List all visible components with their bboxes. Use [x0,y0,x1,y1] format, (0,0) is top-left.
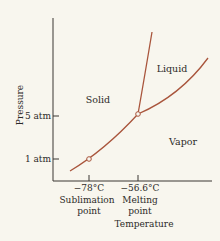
region-label-solid: Solid [86,94,110,105]
phase-diagram-svg: 5 atm 1 atm −78°C −56.6°C Sublimation po… [0,0,220,241]
sublimation-caption-line1: Sublimation [59,195,114,205]
y-tick-label-1atm: 1 atm [25,154,52,164]
sublimation-caption-line2: point [77,206,101,216]
x-axis-title: Temperature [115,219,174,229]
triple-point-marker [136,112,141,117]
y-tick-label-5atm: 5 atm [25,111,52,121]
melting-caption-line1: Melting [122,195,158,205]
melting-caption-line2: point [128,206,152,216]
melting-curve [138,32,152,114]
sublimation-curve [70,114,138,171]
x-tick-label-melting: −56.6°C [121,183,160,193]
region-label-vapor: Vapor [168,136,197,147]
region-label-liquid: Liquid [157,63,188,74]
sublimation-point-marker [87,157,92,162]
phase-diagram: 5 atm 1 atm −78°C −56.6°C Sublimation po… [0,0,220,241]
x-tick-label-sublimation: −78°C [74,183,104,193]
y-axis-title: Pressure [15,85,25,125]
